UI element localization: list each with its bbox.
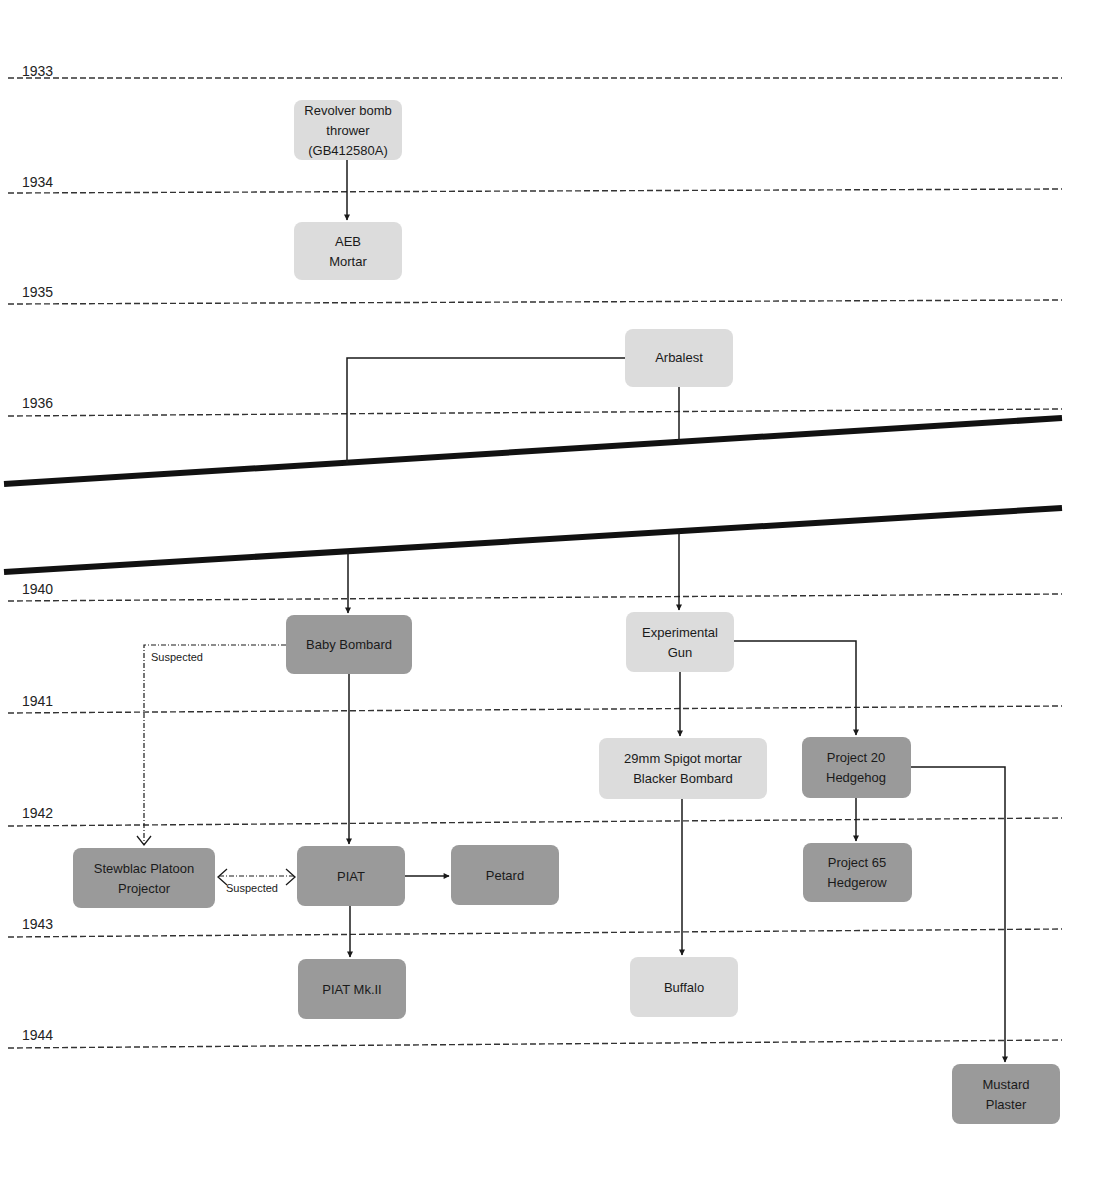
node-label: Mustard <box>983 1077 1030 1092</box>
node-label: AEB <box>335 234 361 249</box>
node-label: Petard <box>486 868 524 883</box>
gridline-1943 <box>8 929 1062 937</box>
node-label: Baby Bombard <box>306 637 392 652</box>
edge-expgun-project20 <box>734 641 856 735</box>
node-label: PIAT Mk.II <box>322 982 381 997</box>
edge-baby-bombard-stewblac-suspected <box>144 645 286 845</box>
year-label: 1940 <box>22 581 53 597</box>
edges <box>347 160 1005 1062</box>
node-buffalo[interactable]: Buffalo <box>630 957 738 1017</box>
gridline-1944 <box>8 1040 1062 1048</box>
break-line-lower <box>4 508 1062 572</box>
node-experimental-gun[interactable]: Experimental Gun <box>626 612 734 672</box>
year-label: 1935 <box>22 284 53 300</box>
year-label: 1934 <box>22 174 53 190</box>
year-label: 1942 <box>22 805 53 821</box>
node-label: Hedgerow <box>827 875 887 890</box>
gridline-1942 <box>8 818 1062 826</box>
timeline-diagram: 1933 1934 1935 1936 1940 1941 1942 1943 … <box>0 0 1117 1185</box>
year-labels: 1933 1934 1935 1936 1940 1941 1942 1943 … <box>22 63 53 1043</box>
node-label: Experimental <box>642 625 718 640</box>
node-baby-bombard[interactable]: Baby Bombard <box>286 615 412 674</box>
node-label: Buffalo <box>664 980 704 995</box>
edge-project20-mustard <box>911 767 1005 1062</box>
gridline-1936 <box>8 409 1062 416</box>
node-label: (GB412580A) <box>308 143 388 158</box>
node-label: Mortar <box>329 254 367 269</box>
node-mustard-plaster[interactable]: Mustard Plaster <box>952 1064 1060 1124</box>
edge-label-suspected: Suspected <box>226 882 278 894</box>
node-label: Revolver bomb <box>304 103 391 118</box>
node-revolver-bomb-thrower[interactable]: Revolver bomb thrower (GB412580A) <box>294 100 402 160</box>
gridline-1941 <box>8 706 1062 713</box>
node-piat-mk2[interactable]: PIAT Mk.II <box>298 959 406 1019</box>
node-spigot-mortar[interactable]: 29mm Spigot mortar Blacker Bombard <box>599 738 767 799</box>
year-label: 1933 <box>22 63 53 79</box>
gridline-1935 <box>8 300 1062 304</box>
node-aeb-mortar[interactable]: AEB Mortar <box>294 222 402 280</box>
node-label: Project 20 <box>827 750 886 765</box>
nodes: Revolver bomb thrower (GB412580A) AEB Mo… <box>73 100 1060 1124</box>
node-label: Projector <box>118 881 171 896</box>
time-break <box>4 418 1062 572</box>
gridline-1934 <box>8 189 1062 193</box>
node-label: Stewblac Platoon <box>94 861 194 876</box>
node-petard[interactable]: Petard <box>451 845 559 905</box>
year-label: 1943 <box>22 916 53 932</box>
node-label: Arbalest <box>655 350 703 365</box>
node-label: Gun <box>668 645 693 660</box>
edge-label-suspected: Suspected <box>151 651 203 663</box>
gridline-1940 <box>8 594 1062 601</box>
chevron-right-icon <box>286 869 295 885</box>
node-label: 29mm Spigot mortar <box>624 751 742 766</box>
year-label: 1941 <box>22 693 53 709</box>
node-project-20-hedgehog[interactable]: Project 20 Hedgehog <box>802 737 911 798</box>
node-stewblac-platoon-projector[interactable]: Stewblac Platoon Projector <box>73 848 215 908</box>
node-label: Blacker Bombard <box>633 771 733 786</box>
node-label: thrower <box>326 123 370 138</box>
node-label: Plaster <box>986 1097 1027 1112</box>
suspected-edges <box>144 645 294 876</box>
year-label: 1936 <box>22 395 53 411</box>
node-label: Hedgehog <box>826 770 886 785</box>
break-line-upper <box>4 418 1062 484</box>
year-label: 1944 <box>22 1027 53 1043</box>
node-arbalest[interactable]: Arbalest <box>625 329 733 387</box>
node-project-65-hedgerow[interactable]: Project 65 Hedgerow <box>803 843 912 902</box>
node-label: Project 65 <box>828 855 887 870</box>
node-piat[interactable]: PIAT <box>297 846 405 906</box>
node-label: PIAT <box>337 869 365 884</box>
